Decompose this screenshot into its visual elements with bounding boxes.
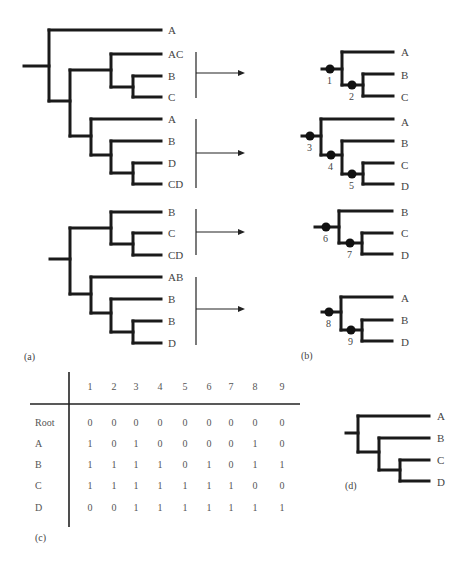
leaf-label: A: [168, 24, 176, 36]
matrix-cell: 1: [253, 502, 258, 513]
leaf-label: B: [168, 70, 175, 82]
column-header: 6: [207, 381, 212, 392]
leaf-label: D: [401, 249, 409, 261]
panel-d-species-tree: A B C D: [346, 410, 445, 488]
matrix-cell: 1: [158, 459, 163, 470]
row-name: C: [35, 480, 42, 491]
column-header: 5: [183, 381, 188, 392]
column-header: 3: [134, 381, 139, 392]
leaf-label: B: [401, 137, 408, 149]
node-marker-icon: [327, 151, 336, 160]
node-number: 9: [348, 336, 353, 347]
matrix-cell: 1: [112, 480, 117, 491]
leaf-label: D: [401, 336, 409, 348]
node-marker-icon: [346, 239, 355, 248]
row-name: Root: [35, 417, 55, 428]
matrix-cell: 0: [112, 502, 117, 513]
leaf-label: AC: [168, 48, 183, 60]
node-number: 2: [349, 91, 354, 102]
matrix-cell: 1: [183, 502, 188, 513]
matrix-cell: 0: [207, 417, 212, 428]
leaf-label: D: [168, 157, 176, 169]
matrix-cell: 0: [183, 438, 188, 449]
node-marker-icon: [348, 81, 357, 90]
matrix-cell: 0: [253, 417, 258, 428]
column-header: 7: [229, 381, 234, 392]
leaf-label: C: [168, 227, 175, 239]
matrix-cell: 1: [280, 502, 285, 513]
node-marker-icon: [306, 132, 315, 141]
leaf-label: B: [401, 314, 408, 326]
panel-c-matrix: 1 2 3 4 5 6 7 8 9 Root A B C D 0 0 0 0 0…: [30, 372, 300, 527]
matrix-cell: 0: [253, 480, 258, 491]
leaf-label: CD: [168, 178, 183, 190]
leaf-label: AB: [168, 271, 183, 283]
panel-label-a: (a): [24, 351, 35, 363]
matrix-cell: 1: [280, 459, 285, 470]
leaf-label: C: [401, 91, 408, 103]
matrix-cell: 0: [112, 438, 117, 449]
leaf-label: A: [401, 292, 409, 304]
leaf-label: B: [401, 69, 408, 81]
leaf-label: D: [401, 180, 409, 192]
node-marker-icon: [348, 170, 357, 179]
matrix-cell: 1: [207, 480, 212, 491]
leaf-label: C: [401, 159, 408, 171]
node-marker-icon: [347, 326, 356, 335]
node-number: 6: [323, 233, 328, 244]
node-number: 1: [327, 75, 332, 86]
matrix-cell: 0: [158, 417, 163, 428]
leaf-label: C: [168, 91, 175, 103]
leaf-label: A: [437, 410, 445, 422]
panel-label-d: (d): [345, 480, 357, 492]
matrix-row-root: 0 0 0 0 0 0 0 0 0: [88, 417, 285, 428]
panel-label-c: (c): [35, 532, 46, 544]
matrix-cell: 1: [134, 459, 139, 470]
matrix-cell: 1: [88, 438, 93, 449]
leaf-label: CD: [168, 249, 183, 261]
node-marker-icon: [322, 223, 331, 232]
leaf-label: A: [168, 113, 176, 125]
matrix-cell: 0: [158, 438, 163, 449]
row-name: D: [35, 502, 42, 513]
leaf-label: B: [168, 135, 175, 147]
matrix-cell: 0: [112, 417, 117, 428]
column-header: 8: [253, 381, 258, 392]
panel-a-gene-tree-2: B C CD AB B B D: [50, 206, 245, 349]
column-header: 4: [158, 381, 163, 392]
matrix-cell: 1: [134, 502, 139, 513]
leaf-label: C: [437, 454, 444, 466]
node-number: 5: [349, 180, 354, 191]
matrix-cell: 1: [229, 480, 234, 491]
matrix-cell: 1: [134, 438, 139, 449]
matrix-cell: 1: [183, 480, 188, 491]
matrix-cell: 1: [207, 502, 212, 513]
matrix-cell: 1: [88, 480, 93, 491]
leaf-label: D: [437, 476, 445, 488]
matrix-cell: 0: [280, 417, 285, 428]
matrix-cell: 0: [88, 417, 93, 428]
leaf-label: B: [437, 432, 444, 444]
column-header: 9: [280, 381, 285, 392]
matrix-cell: 1: [88, 459, 93, 470]
leaf-label: D: [168, 337, 176, 349]
matrix-cell: 0: [280, 438, 285, 449]
matrix-cell: 0: [183, 417, 188, 428]
panel-b-subtree-2: 3 4 5 A B C D: [302, 116, 409, 192]
matrix-cell: 0: [280, 480, 285, 491]
matrix-cell: 0: [229, 459, 234, 470]
matrix-cell: 0: [88, 502, 93, 513]
node-number: 8: [326, 318, 331, 329]
leaf-label: C: [401, 227, 408, 239]
matrix-cell: 1: [134, 480, 139, 491]
matrix-cell: 0: [134, 417, 139, 428]
node-number: 4: [328, 161, 333, 172]
row-name: A: [35, 438, 43, 449]
panel-b-subtree-3: 6 7 B C D: [315, 206, 409, 261]
matrix-cell: 0: [207, 438, 212, 449]
matrix-cell: 0: [229, 438, 234, 449]
node-number: 3: [307, 142, 312, 153]
leaf-label: A: [401, 116, 409, 128]
figure-canvas: A AC B C A B D CD: [0, 0, 465, 570]
matrix-cell: 1: [158, 502, 163, 513]
